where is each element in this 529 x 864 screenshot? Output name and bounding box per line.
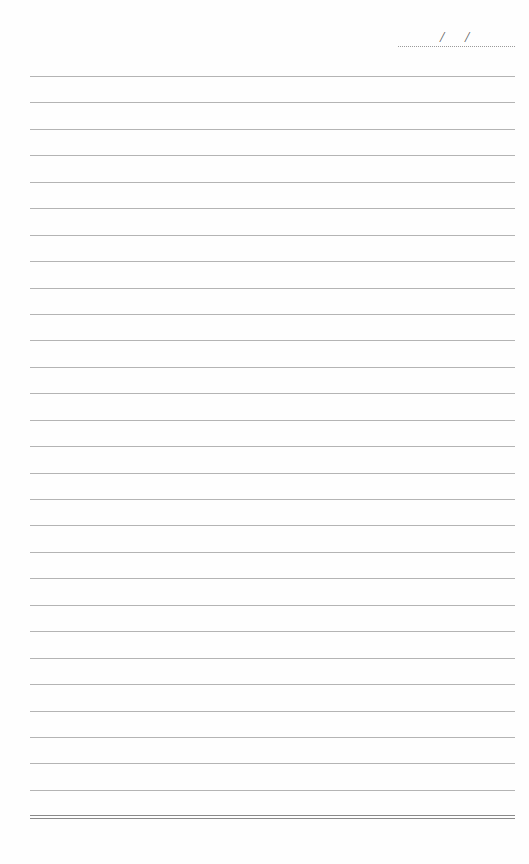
ruled-line	[30, 182, 515, 183]
ruled-line	[30, 235, 515, 236]
ruled-line	[30, 129, 515, 130]
ruled-line	[30, 552, 515, 553]
ruled-line	[30, 314, 515, 315]
ruled-line	[30, 605, 515, 606]
ruled-line	[30, 102, 515, 103]
ruled-line	[30, 790, 515, 791]
ruled-line	[30, 499, 515, 500]
ruled-line	[30, 393, 515, 394]
ruled-line	[30, 658, 515, 659]
ruled-line	[30, 261, 515, 262]
ruled-line	[30, 367, 515, 368]
ruled-line	[30, 76, 515, 77]
ruled-line	[30, 711, 515, 712]
ruled-line	[30, 340, 515, 341]
ruled-line	[30, 525, 515, 526]
ruled-line	[30, 288, 515, 289]
date-separator: /	[462, 30, 472, 44]
ruled-line	[30, 737, 515, 738]
ruled-line	[30, 446, 515, 447]
ruled-line	[30, 763, 515, 764]
date-separator: /	[437, 30, 447, 44]
ruled-line	[30, 631, 515, 632]
ruled-line	[30, 155, 515, 156]
ruled-line	[30, 208, 515, 209]
date-field[interactable]: / /	[398, 30, 515, 47]
ruled-line	[30, 684, 515, 685]
ruled-line	[30, 578, 515, 579]
ruled-line	[30, 473, 515, 474]
ruled-line	[30, 420, 515, 421]
notebook-page: / /	[0, 0, 529, 864]
bottom-double-rule	[30, 815, 515, 819]
